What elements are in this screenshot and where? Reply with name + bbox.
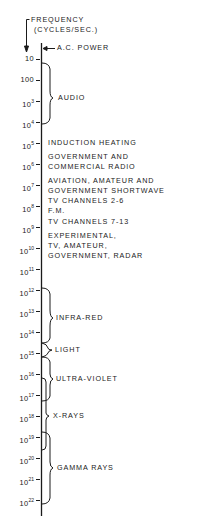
tick-label: 105 [0,139,34,151]
tick-mark [36,353,40,354]
tick-label: 108 [0,202,34,214]
tick-mark [36,416,40,417]
label-experimental-line2: TV, AMATEUR, [48,242,108,250]
tick-label: 1022 [0,496,34,508]
tick-mark [36,206,40,207]
tick-label: 1012 [0,286,34,298]
tick-mark [36,185,40,186]
tick-mark [36,458,40,459]
tick-label: 107 [0,181,34,193]
tick-label: 1020 [0,454,34,466]
tick-label: 1018 [0,412,34,424]
tick-mark [36,227,40,228]
ultra-violet-brace [42,357,53,401]
label-audio: AUDIO [58,94,85,102]
tick-label: 106 [0,160,34,172]
tick-label: 1015 [0,349,34,361]
tick-mark [36,374,40,375]
tick-label: 1019 [0,433,34,445]
label-ac-power: A.C. POWER [57,44,109,52]
tick-mark [36,101,40,102]
infra-red-brace [42,288,53,343]
tick-mark [36,500,40,501]
tick-mark [36,59,40,60]
light-brace [42,343,52,357]
label-government-commercial-line1: GOVERNMENT AND [48,153,129,161]
tick-label: 10 [0,55,34,63]
x-rays-brace [42,378,49,450]
label-aviation-line2: GOVERNMENT SHORTWAVE [48,187,165,195]
label-tv-channels-2-6: TV CHANNELS 2-6 [48,197,124,205]
tick-mark [36,269,40,270]
label-induction-heating: INDUCTION HEATING [48,139,137,147]
label-ultra-violet: ULTRA-VIOLET [56,375,118,383]
tick-label: 1010 [0,244,34,256]
tick-label: 1014 [0,328,34,340]
tick-mark [36,290,40,291]
tick-label: 1011 [0,265,34,277]
label-fm: F.M. [48,207,65,215]
label-government-commercial-line2: COMMERCIAL RADIO [48,163,136,171]
tick-mark [36,437,40,438]
audio-brace [42,63,53,124]
tick-label: 1013 [0,307,34,319]
tick-mark [36,479,40,480]
tick-mark [36,164,40,165]
label-infra-red: INFRA-RED [56,314,103,322]
label-aviation-line1: AVIATION, AMATEUR AND [48,177,154,185]
label-tv-channels-7-13: TV CHANNELS 7-13 [48,218,129,226]
label-experimental-line1: EXPERIMENTAL, [48,232,117,240]
tick-label: 1021 [0,475,34,487]
tick-mark [36,332,40,333]
tick-label: 100 [0,76,34,84]
tick-mark [36,143,40,144]
tick-label: 109 [0,223,34,235]
tick-label: 1017 [0,391,34,403]
label-experimental-line3: GOVERNMENT, RADAR [48,252,143,260]
frequency-spectrum-diagram: FREQUENCY (CYCLES/SEC.) 10 [0,0,200,526]
tick-mark [36,80,40,81]
tick-mark [36,395,40,396]
tick-mark [36,122,40,123]
tick-mark [36,311,40,312]
label-light: LIGHT [55,346,81,354]
tick-label: 103 [0,97,34,109]
label-x-rays: X-RAYS [53,412,85,420]
tick-mark [36,248,40,249]
gamma-rays-brace [42,432,53,504]
tick-label: 104 [0,118,34,130]
down-arrow-icon [27,20,30,51]
label-gamma-rays: GAMMA RAYS [57,464,114,472]
tick-label: 1016 [0,370,34,382]
